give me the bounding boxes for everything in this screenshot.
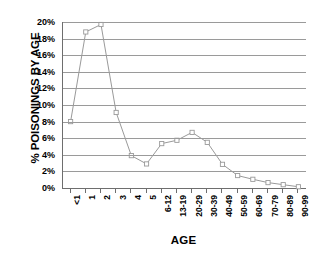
x-tick-label: 30-39	[210, 195, 219, 217]
x-tick-label: 60-69	[255, 195, 264, 217]
data-point-marker	[220, 162, 224, 166]
data-point-marker	[236, 173, 240, 177]
plot-area	[62, 22, 306, 189]
x-tick-mark	[176, 189, 177, 193]
gridline	[63, 122, 306, 123]
data-point-marker	[160, 142, 164, 146]
x-tick-label: 70-79	[271, 195, 280, 217]
y-tick-label: 0%	[22, 184, 55, 193]
x-tick-mark	[237, 189, 238, 193]
x-tick-label: 2	[103, 195, 112, 200]
x-tick-label: 4	[134, 195, 143, 200]
x-tick-label: 20-29	[195, 195, 204, 217]
y-tick-label: 4%	[22, 150, 55, 159]
x-tick-mark	[206, 189, 207, 193]
x-tick-mark	[221, 189, 222, 193]
x-tick-label: 1	[88, 195, 97, 200]
x-tick-mark	[252, 189, 253, 193]
data-point-marker	[281, 183, 285, 187]
y-tick-label: 20%	[22, 18, 55, 27]
y-tick-label: 18%	[22, 34, 55, 43]
x-tick-mark	[100, 189, 101, 193]
x-tick-mark	[267, 189, 268, 193]
x-tick-mark	[282, 189, 283, 193]
x-tick-label: 3	[119, 195, 128, 200]
data-point-marker	[190, 130, 194, 134]
x-tick-mark	[191, 189, 192, 193]
x-tick-label: 50-59	[240, 195, 249, 217]
data-point-marker	[266, 181, 270, 185]
y-tick-label: 8%	[22, 117, 55, 126]
x-tick-label: 80-89	[286, 195, 295, 217]
x-tick-mark	[115, 189, 116, 193]
poisonings-by-age-line-chart: % POISONINGS BY AGE 0%2%4%6%8%10%12%14%1…	[0, 0, 333, 255]
x-tick-mark	[70, 189, 71, 193]
y-tick-label: 16%	[22, 51, 55, 60]
gridline	[63, 138, 306, 139]
y-axis-tick-labels: 0%2%4%6%8%10%12%14%16%18%20%	[22, 22, 55, 188]
y-tick-label: 2%	[22, 167, 55, 176]
x-tick-label: <1	[73, 195, 82, 205]
x-tick-label: 5	[149, 195, 158, 200]
data-point-marker	[99, 22, 103, 26]
data-point-marker	[144, 162, 148, 166]
gridline	[63, 171, 306, 172]
gridline	[63, 88, 306, 89]
y-tick-label: 14%	[22, 67, 55, 76]
x-axis-tick-labels: <1123456-1213-1920-2930-3940-4950-5960-6…	[62, 189, 305, 235]
y-tick-label: 6%	[22, 134, 55, 143]
x-tick-mark	[130, 189, 131, 193]
gridline	[63, 105, 306, 106]
data-point-marker	[251, 177, 255, 181]
gridline	[63, 39, 306, 40]
gridline	[63, 155, 306, 156]
gridline	[63, 55, 306, 56]
x-axis-title: AGE	[62, 234, 305, 246]
gridline	[63, 72, 306, 73]
x-tick-mark	[297, 189, 298, 193]
x-tick-mark	[85, 189, 86, 193]
x-tick-mark	[161, 189, 162, 193]
data-point-marker	[205, 140, 209, 144]
gridline	[63, 22, 306, 23]
x-tick-label: 6-12	[164, 195, 173, 212]
x-tick-mark	[146, 189, 147, 193]
x-tick-label: 13-19	[179, 195, 188, 217]
x-tick-label: 90-99	[301, 195, 310, 217]
y-tick-label: 10%	[22, 101, 55, 110]
data-point-marker	[114, 110, 118, 114]
x-tick-label: 40-49	[225, 195, 234, 217]
data-point-marker	[84, 30, 88, 34]
y-tick-label: 12%	[22, 84, 55, 93]
